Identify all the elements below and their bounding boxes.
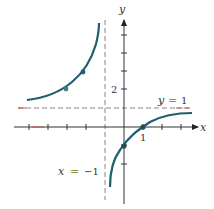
v-asymptote-label-eq: = — [70, 165, 79, 178]
y-tick-label-2: 2 — [111, 84, 117, 95]
graph-canvas: y x 1 2 y = 1 x = −1 — [0, 0, 214, 209]
point-neg3-2 — [64, 87, 69, 92]
point-1-0 — [140, 124, 145, 129]
y-axis-label: y — [118, 3, 126, 16]
h-asymptote-label-eq: = — [168, 94, 177, 107]
point-neg2-3 — [81, 70, 86, 75]
curve-right-branch — [110, 113, 192, 187]
v-asymptote-label-var: x — [58, 165, 65, 178]
h-asymptote-label-var: y — [157, 94, 165, 107]
h-asymptote-label-val: 1 — [181, 95, 187, 106]
curve-left-branch — [27, 23, 99, 100]
x-axis-label: x — [200, 121, 207, 134]
point-0-neg1 — [121, 143, 126, 148]
v-asymptote-label-val: −1 — [84, 166, 99, 177]
x-tick-label-1: 1 — [140, 132, 146, 143]
